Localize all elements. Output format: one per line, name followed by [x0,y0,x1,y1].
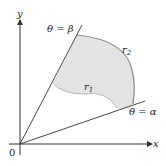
theta-beta-label: θ = β [47,23,74,34]
y-axis-label: y [16,8,23,19]
diagram-canvas: y x 0 θ = β θ = α r2 r1 [0,0,166,166]
x-axis-label: x [153,138,159,149]
origin-label: 0 [9,147,15,158]
polar-region-diagram: y x 0 θ = β θ = α r2 r1 [0,0,166,166]
theta-alpha-label: θ = α [129,106,157,117]
